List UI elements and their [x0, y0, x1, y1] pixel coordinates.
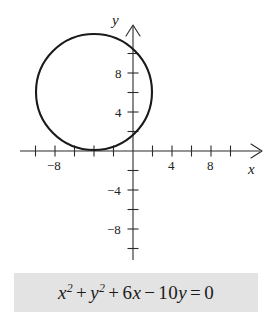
equation-text: x2+y2+6x−10y=0	[58, 282, 214, 304]
y-axis-label: y	[112, 13, 119, 28]
coordinate-plane: −8 4 8 8 4 −4 −8 y x	[0, 0, 277, 272]
equation-minus: −	[144, 282, 155, 303]
x-tick-label--8: −8	[47, 159, 61, 172]
y-tick-label--8: −8	[107, 223, 121, 236]
equation-y-linear: y	[178, 282, 187, 303]
y-tick-label--4: −4	[107, 184, 121, 197]
x-axis-label: x	[248, 162, 255, 177]
equation-y-term: y	[90, 282, 99, 303]
circle-graph-figure: −8 4 8 8 4 −4 −8 y x x2+y2+6x−10y=0	[0, 0, 277, 312]
equation-coefficient-six: 6	[122, 282, 132, 303]
equation-plus-1: +	[76, 282, 87, 303]
x-tick-label-8: 8	[207, 159, 214, 172]
y-tick-label-4: 4	[115, 106, 122, 119]
equation-x-linear: x	[132, 282, 141, 303]
equation-y-exponent: 2	[99, 281, 105, 294]
equation-caption-box: x2+y2+6x−10y=0	[14, 273, 258, 312]
equation-x-term: x	[58, 282, 67, 303]
y-tick-label-8: 8	[115, 67, 122, 80]
graph-svg	[0, 0, 277, 272]
equation-equals: =	[190, 282, 201, 303]
equation-plus-2: +	[108, 282, 119, 303]
x-tick-label-4: 4	[168, 159, 175, 172]
equation-zero: 0	[204, 282, 214, 303]
equation-coefficient-ten: 10	[158, 282, 178, 303]
equation-x-exponent: 2	[67, 281, 73, 294]
